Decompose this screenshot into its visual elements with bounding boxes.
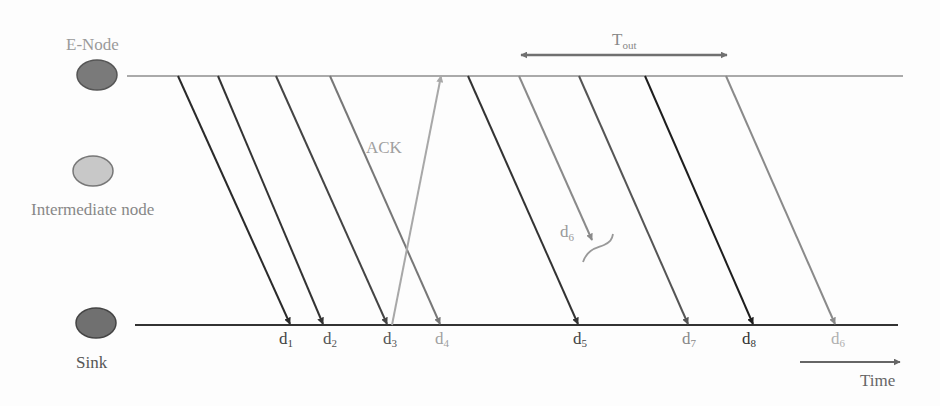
intermediate-node-label: Intermediate node bbox=[31, 200, 154, 220]
packet-label: d4 bbox=[435, 329, 449, 349]
timeout-label-sub: out bbox=[622, 39, 636, 51]
packet-label: d5 bbox=[573, 329, 587, 349]
packet-label: d1 bbox=[279, 329, 293, 349]
packet-arrow bbox=[330, 76, 440, 324]
packet-arrow bbox=[468, 76, 578, 324]
timeout-label-main: T bbox=[612, 30, 622, 49]
intermediate-node-dot bbox=[73, 156, 113, 186]
packet-label: d2 bbox=[323, 329, 337, 349]
transmission-timing-diagram: E-Node Intermediate node Sink ACK Tout d… bbox=[0, 0, 940, 406]
packet-arrow bbox=[726, 76, 835, 324]
enode-dot bbox=[77, 60, 117, 90]
lost-packet-label-main: d bbox=[560, 222, 569, 241]
lost-packet-label-sub: 6 bbox=[569, 231, 575, 243]
enode-label: E-Node bbox=[66, 35, 119, 55]
time-axis-label: Time bbox=[860, 371, 895, 391]
sink-label: Sink bbox=[76, 353, 107, 373]
ack-label: ACK bbox=[366, 138, 402, 158]
packet-loss-squiggle bbox=[583, 234, 613, 262]
lost-packet-label: d6 bbox=[560, 222, 574, 243]
packet-label: d6 bbox=[831, 329, 845, 349]
packet-label: d3 bbox=[383, 329, 397, 349]
timeout-label: Tout bbox=[612, 30, 636, 51]
sink-dot bbox=[76, 308, 116, 338]
packet-arrow bbox=[579, 76, 688, 324]
packet-label: d7 bbox=[682, 329, 696, 349]
packet-arrows bbox=[178, 76, 835, 324]
packet-arrow bbox=[276, 76, 387, 324]
packet-arrow bbox=[645, 76, 753, 324]
ack-arrow bbox=[392, 76, 441, 325]
packet-label: d8 bbox=[742, 329, 756, 349]
